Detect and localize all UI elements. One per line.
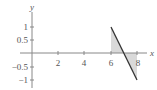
y-tick-label: 0.5 — [17, 35, 29, 45]
y-tick-label: −1 — [18, 75, 28, 85]
x-tick-label: 8 — [136, 58, 141, 68]
x-axis-label: x — [149, 48, 154, 58]
chart: 2 4 6 8 1 0.5 −0.5 −1 x y — [0, 0, 157, 90]
x-tick-label: 4 — [82, 58, 87, 68]
y-tick-label: −0.5 — [12, 62, 29, 72]
y-axis-label: y — [29, 2, 34, 12]
x-tick-label: 6 — [109, 58, 114, 68]
x-tick-label: 2 — [56, 58, 61, 68]
y-tick-label: 1 — [24, 22, 29, 32]
